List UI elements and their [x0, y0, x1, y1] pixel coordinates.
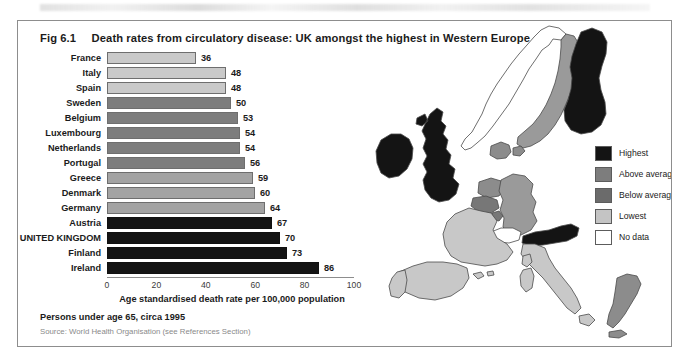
- page-scan-artifact: [0, 0, 691, 18]
- bar-label-denmark: Denmark: [18, 187, 101, 200]
- bar-track: 86: [107, 262, 357, 274]
- bar-label-luxembourg: Luxembourg: [18, 127, 101, 140]
- legend-swatch-no-data: [595, 230, 612, 245]
- bar-label-portugal: Portugal: [18, 157, 101, 170]
- map-region-balearics[interactable]: [473, 271, 494, 279]
- bar-france[interactable]: [107, 52, 196, 64]
- bar-track: 73: [107, 247, 357, 259]
- page-text-smudge: [40, 4, 650, 11]
- legend-label: Highest: [619, 146, 648, 161]
- bar-label-finland: Finland: [18, 247, 101, 260]
- bar-spain[interactable]: [107, 82, 226, 94]
- map-region-uk[interactable]: [416, 108, 459, 202]
- legend-swatch-below-average: [595, 188, 612, 203]
- x-tick-100: 100: [347, 280, 361, 290]
- bar-portugal[interactable]: [107, 157, 245, 169]
- legend-label: Lowest: [619, 209, 646, 224]
- legend-swatch-above-average: [595, 167, 612, 182]
- bar-sweden[interactable]: [107, 97, 231, 109]
- bar-value-luxembourg: 54: [245, 127, 255, 139]
- bar-luxembourg[interactable]: [107, 127, 240, 139]
- bar-value-denmark: 60: [260, 187, 270, 199]
- bar-track: 50: [107, 97, 357, 109]
- europe-map: [373, 22, 671, 347]
- x-tick-0: 0: [105, 280, 110, 290]
- x-axis-title: Age standardised death rate per 100,000 …: [107, 294, 357, 304]
- bar-label-austria: Austria: [18, 217, 101, 230]
- bar-label-belgium: Belgium: [18, 112, 101, 125]
- map-region-ireland[interactable]: [376, 134, 413, 178]
- x-tick-80: 80: [300, 280, 310, 290]
- bar-track: 59: [107, 172, 357, 184]
- bar-value-italy: 48: [231, 67, 241, 79]
- bar-track: 53: [107, 112, 357, 124]
- bar-belgium[interactable]: [107, 112, 238, 124]
- legend-swatch-lowest: [595, 209, 612, 224]
- bar-greece[interactable]: [107, 172, 253, 184]
- bar-value-austria: 67: [277, 217, 287, 229]
- map-region-spain[interactable]: [397, 262, 469, 300]
- x-tick-40: 40: [201, 280, 211, 290]
- bar-track: 48: [107, 67, 357, 79]
- bar-label-united-kingdom: UNITED KINGDOM: [18, 232, 101, 245]
- bar-value-greece: 59: [258, 172, 268, 184]
- bar-value-france: 36: [201, 52, 211, 64]
- bar-track: 56: [107, 157, 357, 169]
- bar-value-finland: 73: [292, 247, 302, 259]
- bar-italy[interactable]: [107, 67, 226, 79]
- bar-value-portugal: 56: [250, 157, 260, 169]
- figure-number: Fig 6.1: [40, 32, 76, 44]
- bar-label-france: France: [18, 52, 101, 65]
- x-axis-line: [107, 277, 354, 278]
- legend-label: Above average: [619, 167, 671, 182]
- bar-track: 70: [107, 232, 357, 244]
- x-tick-20: 20: [152, 280, 162, 290]
- x-tick-60: 60: [250, 280, 260, 290]
- bar-track: 54: [107, 127, 357, 139]
- bar-track: 36: [107, 52, 357, 64]
- bar-austria[interactable]: [107, 217, 272, 229]
- map-region-greece[interactable]: [607, 274, 641, 338]
- bar-ireland[interactable]: [107, 262, 319, 274]
- legend-swatch-highest: [595, 146, 612, 161]
- map-region-germany[interactable]: [499, 174, 537, 235]
- bar-label-netherlands: Netherlands: [18, 142, 101, 155]
- bar-label-germany: Germany: [18, 202, 101, 215]
- bar-track: 54: [107, 142, 357, 154]
- bar-track: 48: [107, 82, 357, 94]
- legend-label: Below average: [619, 188, 671, 203]
- bar-label-sweden: Sweden: [18, 97, 101, 110]
- bar-chart: France36Italy48Spain48Sweden50Belgium53L…: [18, 51, 378, 311]
- bar-track: 60: [107, 187, 357, 199]
- bar-value-ireland: 86: [324, 262, 334, 274]
- bar-track: 67: [107, 217, 357, 229]
- figure-source: Source: World Health Organisation (see R…: [40, 327, 250, 336]
- map-region-sardinia[interactable]: [520, 268, 534, 292]
- bar-value-spain: 48: [231, 82, 241, 94]
- bar-germany[interactable]: [107, 202, 265, 214]
- figure-footnote: Persons under age 65, circa 1995: [40, 312, 185, 322]
- bar-netherlands[interactable]: [107, 142, 240, 154]
- bar-label-greece: Greece: [18, 172, 101, 185]
- bar-label-italy: Italy: [18, 67, 101, 80]
- map-region-portugal[interactable]: [389, 270, 407, 298]
- map-panel: HighestAbove averageBelow averageLowestN…: [373, 22, 671, 347]
- bar-united-kingdom[interactable]: [107, 232, 280, 244]
- figure-container: Fig 6.1 Death rates from circulatory dis…: [17, 20, 672, 347]
- bar-value-germany: 64: [270, 202, 280, 214]
- bar-value-belgium: 53: [243, 112, 253, 124]
- bar-finland[interactable]: [107, 247, 287, 259]
- bar-track: 64: [107, 202, 357, 214]
- bar-value-sweden: 50: [236, 97, 246, 109]
- bar-label-ireland: Ireland: [18, 262, 101, 275]
- legend-label: No data: [619, 230, 649, 245]
- bar-value-netherlands: 54: [245, 142, 255, 154]
- bar-label-spain: Spain: [18, 82, 101, 95]
- bar-denmark[interactable]: [107, 187, 255, 199]
- bar-value-united-kingdom: 70: [285, 232, 295, 244]
